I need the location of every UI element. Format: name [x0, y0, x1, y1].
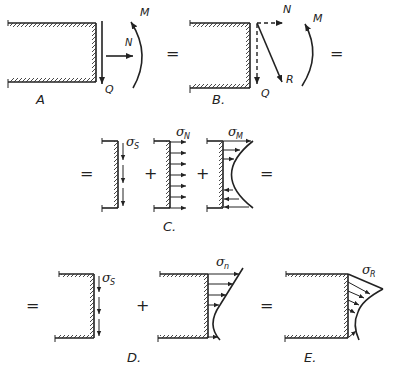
equals-sign: =	[260, 296, 273, 315]
label-q: Q	[105, 83, 114, 96]
label-n: N	[125, 37, 133, 48]
shear-stress-block: σ S	[102, 134, 139, 212]
caption-e: E.	[304, 350, 316, 365]
resultant-force-arrow	[257, 23, 282, 82]
sigma-s-subscript: S	[110, 278, 115, 287]
equals-sign: =	[166, 44, 179, 63]
normal-stress-block: σ n	[158, 254, 243, 342]
stress-decomposition-diagram: M N Q A = N M R Q B. = =	[0, 0, 397, 373]
equals-sign: =	[26, 296, 39, 315]
label-m: M	[140, 6, 150, 19]
sigma-m-subscript: M	[236, 132, 243, 141]
plus-sign: +	[196, 164, 209, 183]
equals-sign: =	[80, 164, 93, 183]
panel-c: = σ S +	[80, 124, 273, 234]
sigma-r-subscript: R	[370, 270, 376, 279]
normal-stress-block: σ N	[154, 124, 190, 212]
equals-sign: =	[330, 44, 343, 63]
resultant-stress-block: σ R	[285, 262, 383, 342]
sigma-n-subscript: N	[184, 132, 190, 141]
panel-d: = σ S +	[26, 254, 243, 365]
plus-sign: +	[136, 296, 149, 315]
caption-b: B.	[212, 92, 225, 107]
bending-stress-block: σ M	[207, 124, 253, 212]
label-q: Q	[261, 87, 270, 100]
moment-arc	[131, 22, 142, 88]
label-r: R	[286, 73, 294, 86]
panel-e: σ R E.	[285, 262, 383, 365]
equals-sign: =	[260, 164, 273, 183]
beam-section	[8, 20, 96, 88]
caption-d: D.	[127, 350, 141, 365]
caption-c: C.	[163, 219, 176, 234]
label-n: N	[283, 3, 291, 16]
beam-section	[190, 20, 250, 93]
sigma-n-subscript: n	[224, 262, 229, 271]
shear-stress-block: σ S	[55, 270, 115, 342]
caption-a: A	[35, 92, 45, 107]
label-m: M	[313, 12, 323, 25]
moment-arc	[302, 24, 313, 86]
panel-a: M N Q A	[8, 6, 150, 107]
plus-sign: +	[144, 164, 157, 183]
panel-b: N M R Q B.	[190, 3, 323, 107]
sigma-s-subscript: S	[134, 142, 139, 151]
